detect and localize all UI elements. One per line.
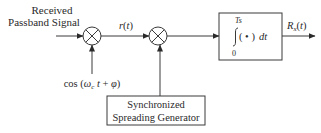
integral-sign-icon <box>233 28 238 46</box>
input-label-line1: Received <box>32 4 73 16</box>
integrand: ( • )dt <box>239 31 268 43</box>
mixer1-multiplier-icon <box>83 27 101 45</box>
input-label-line2: Passband Signal <box>8 16 80 28</box>
integral-lower-limit: 0 <box>232 49 236 58</box>
integral-upper-limit: Ts <box>235 16 242 25</box>
lo-label: cos (ωc t + φ) <box>64 78 121 91</box>
output-label: Rx(t) <box>286 20 307 33</box>
block-diagram: Received Passband Signal cos (ωc t + φ) … <box>0 0 321 133</box>
mixer2-multiplier-icon <box>149 27 167 45</box>
r-signal-label: r(t) <box>119 20 134 32</box>
generator-label-line2: Spreading Generator <box>112 112 200 123</box>
generator-label-line1: Synchronized <box>127 99 185 110</box>
